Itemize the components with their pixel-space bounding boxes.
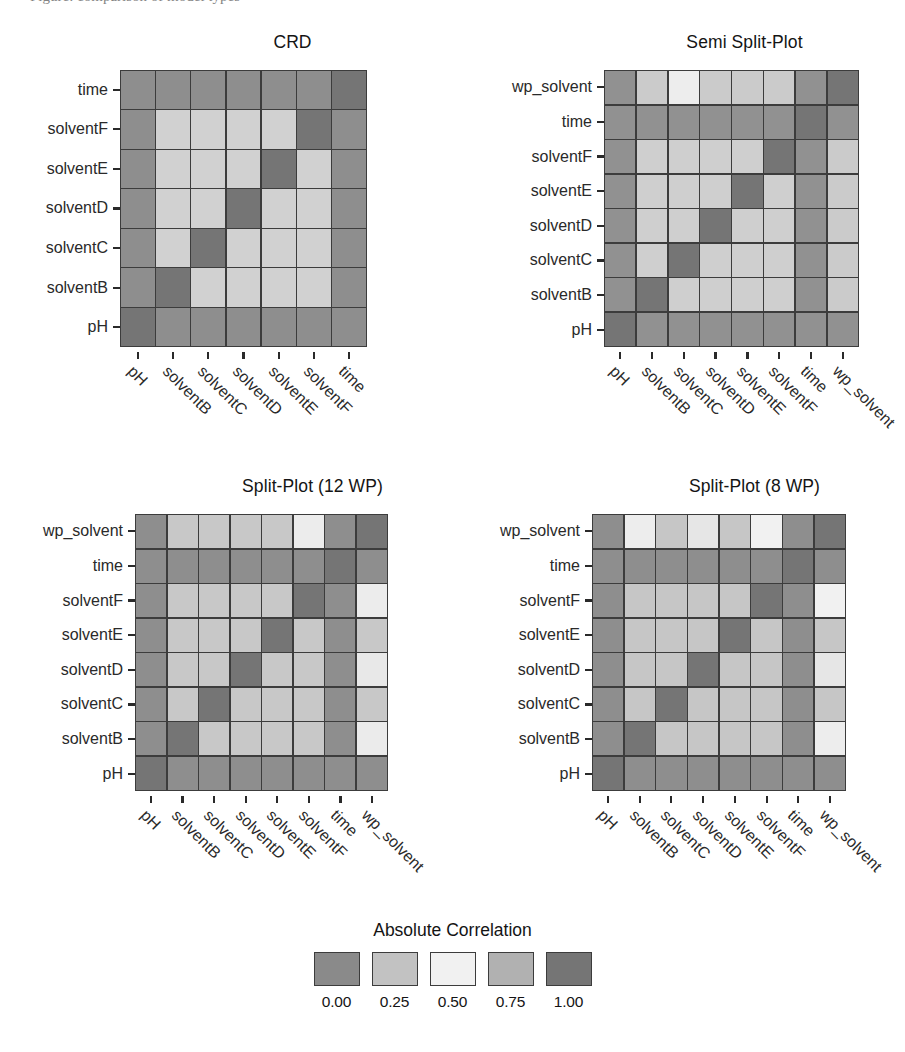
heatmap-cell	[593, 515, 623, 548]
heatmap-cell	[700, 244, 730, 277]
y-axis-label: solventB	[47, 280, 120, 296]
heatmap-cell	[325, 653, 355, 686]
y-axis-label-text: solventD	[530, 218, 592, 234]
heatmap-cell	[751, 584, 781, 617]
y-axis-label: solventE	[531, 183, 604, 199]
heatmap-cell	[168, 584, 198, 617]
heatmap-cell	[828, 278, 858, 311]
x-axis-label: wp_solvent	[359, 807, 427, 875]
heatmap-cell	[656, 515, 686, 548]
y-axis-tick-mark	[128, 565, 135, 567]
heatmap-cell	[764, 71, 794, 104]
legend-tick-label: 1.00	[546, 993, 592, 1011]
heatmap-cell	[605, 278, 635, 311]
heatmap-cell	[637, 209, 667, 242]
heatmap-cell	[357, 757, 387, 790]
heatmap-cell	[156, 189, 190, 227]
heatmap-cell	[688, 515, 718, 548]
heatmap-cell	[637, 106, 667, 139]
heatmap-cell	[828, 175, 858, 208]
heatmap-cell	[637, 140, 667, 173]
legend-tick-label: 0.50	[430, 993, 476, 1011]
y-axis-tick-mark	[597, 294, 604, 296]
heatmap-cell	[168, 653, 198, 686]
heatmap-cell	[720, 550, 750, 583]
heatmap-cell	[231, 584, 261, 617]
y-axis-label-text: solventE	[519, 627, 580, 643]
y-axis-label: solventD	[46, 200, 120, 216]
x-axis-tick-mark	[245, 796, 247, 803]
heatmap-cell	[136, 619, 166, 652]
y-axis-label: solventC	[518, 696, 592, 712]
x-axis-tick-mark	[619, 352, 621, 359]
heatmap-cell	[656, 688, 686, 721]
x-axis-tick-mark	[313, 352, 315, 359]
x-axis-label: pH	[137, 807, 163, 833]
heatmap-cell	[156, 229, 190, 267]
x-axis-labels-split-plot-12wp: pHsolventBsolventCsolventDsolventEsolven…	[135, 807, 388, 897]
x-axis-tick-cell	[332, 352, 367, 360]
x-axis-label: pH	[595, 807, 621, 833]
heatmap-cell	[796, 140, 826, 173]
heatmap-cell	[656, 619, 686, 652]
heatmap-cell	[637, 313, 667, 346]
heatmap-cell	[191, 71, 225, 109]
heatmap-cell	[605, 71, 635, 104]
heatmap-cell	[294, 757, 324, 790]
y-axis-label: pH	[560, 766, 592, 782]
y-axis-label-text: solventB	[519, 731, 580, 747]
heatmap-cell	[294, 688, 324, 721]
x-axis-label-cell: solventE	[719, 807, 751, 897]
x-axis-label-cell: solventB	[155, 363, 190, 453]
x-axis-label-cell: solventC	[198, 807, 230, 897]
legend-swatch	[372, 952, 418, 986]
heatmap-cell	[227, 229, 261, 267]
y-axis-label: solventC	[46, 240, 120, 256]
heatmap-cell	[732, 313, 762, 346]
heatmap-cell	[783, 722, 813, 755]
x-axis-label: pH	[607, 363, 633, 389]
heatmap-cell	[732, 71, 762, 104]
legend-tick-label: 0.25	[372, 993, 418, 1011]
heatmap-cell	[191, 189, 225, 227]
x-axis-label-cell: wp_solvent	[827, 363, 859, 453]
heatmap-cell	[168, 515, 198, 548]
x-axis-label-cell: solventC	[191, 363, 226, 453]
heatmap-cell	[262, 688, 292, 721]
legend-item: 0.75	[488, 952, 534, 1011]
y-axis-tick-mark	[597, 259, 604, 261]
y-axis-tick-mark	[585, 703, 592, 705]
heatmap-cell	[815, 515, 845, 548]
heatmap-cell	[121, 189, 155, 227]
x-axis-tick-cell	[191, 352, 226, 360]
y-axis-tick-mark	[597, 225, 604, 227]
heatmap-cell	[136, 550, 166, 583]
heatmap-cell	[605, 140, 635, 173]
heatmap-cell	[828, 140, 858, 173]
x-axis-label-cell: solventF	[751, 807, 783, 897]
y-axis-label-text: solventC	[46, 240, 108, 256]
heatmap-cell	[227, 189, 261, 227]
heatmap-cell	[751, 619, 781, 652]
heatmap-cell	[656, 550, 686, 583]
heatmap-cell	[764, 278, 794, 311]
x-axis-tick-mark	[137, 352, 139, 359]
heatmap-cell	[168, 619, 198, 652]
heatmap-cell	[688, 584, 718, 617]
heatmap-cell	[297, 110, 331, 148]
legend-item: 1.00	[546, 952, 592, 1011]
x-axis-tick-mark	[714, 352, 716, 359]
y-axis-label-text: solventD	[518, 662, 580, 678]
y-axis-tick-mark	[128, 703, 135, 705]
x-axis-tick-cell	[230, 796, 262, 804]
x-axis-tick-mark	[172, 352, 174, 359]
x-axis-tick-mark	[797, 796, 799, 803]
x-axis-tick-cell	[135, 796, 167, 804]
heatmap-cell	[605, 106, 635, 139]
heatmap-cell	[156, 71, 190, 109]
heatmap-cell	[815, 653, 845, 686]
chart-title-split-plot-8wp: Split-Plot (8 WP)	[302, 476, 905, 497]
heatmap-cell	[156, 308, 190, 346]
heatmap-cell	[593, 688, 623, 721]
legend-swatch	[430, 952, 476, 986]
